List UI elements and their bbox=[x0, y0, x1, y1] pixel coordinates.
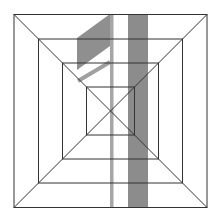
nested-squares-diagram bbox=[0, 0, 220, 222]
thick-band bbox=[128, 14, 148, 208]
